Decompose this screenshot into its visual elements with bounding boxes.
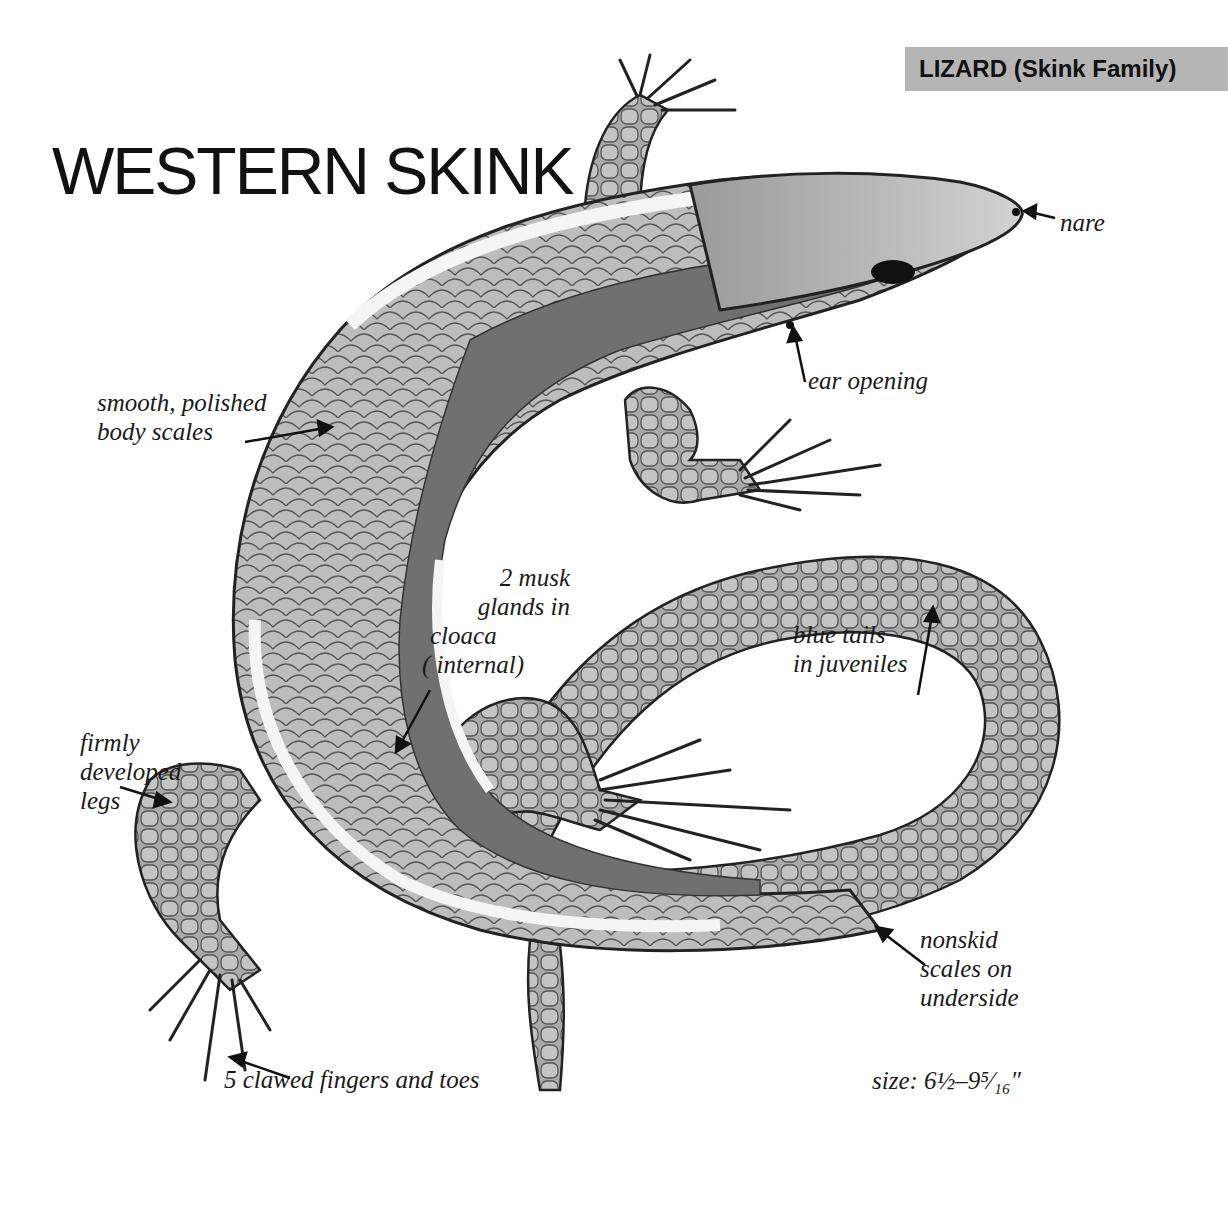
label-nonskid-line3: underside [920, 983, 1019, 1012]
family-badge: LIZARD (Skink Family) [905, 47, 1228, 91]
label-legs: firmly developed legs [80, 728, 181, 815]
front-leg-mid [625, 388, 880, 510]
label-nare: nare [1060, 208, 1105, 237]
label-musk-line2: glands in [430, 592, 570, 621]
hind-leg-lower [528, 940, 564, 1090]
label-size: size: 6½–9⁵⁄₁₆″ [872, 1066, 1021, 1095]
label-legs-line3: legs [80, 786, 181, 815]
label-ear-opening: ear opening [808, 366, 928, 395]
label-nonskid-line1: nonskid [920, 925, 1019, 954]
label-legs-line1: firmly [80, 728, 181, 757]
field-guide-page: LIZARD (Skink Family) WESTERN SKINK nare… [0, 0, 1228, 1205]
label-blue-tails: blue tails in juveniles [793, 620, 908, 678]
eye-icon [871, 260, 915, 284]
label-nonskid: nonskid scales on underside [920, 925, 1019, 1012]
label-musk-glands: 2 musk glands in cloaca ( internal) [430, 563, 570, 679]
label-musk-line3: cloaca [430, 621, 570, 650]
label-musk-line1: 2 musk [430, 563, 570, 592]
family-badge-text: LIZARD (Skink Family) [919, 55, 1176, 83]
nare-dot [1012, 208, 1020, 216]
label-nonskid-line2: scales on [920, 954, 1019, 983]
label-blue-tails-line1: blue tails [793, 620, 908, 649]
label-body-scales: smooth, polished body scales [97, 388, 266, 446]
label-blue-tails-line2: in juveniles [793, 649, 908, 678]
label-body-scales-line1: smooth, polished [97, 388, 266, 417]
label-body-scales-line2: body scales [97, 417, 266, 446]
label-legs-line2: developed [80, 757, 181, 786]
label-musk-line4: ( internal) [422, 650, 570, 679]
label-claws: 5 clawed fingers and toes [224, 1065, 480, 1094]
page-title: WESTERN SKINK [52, 138, 572, 204]
